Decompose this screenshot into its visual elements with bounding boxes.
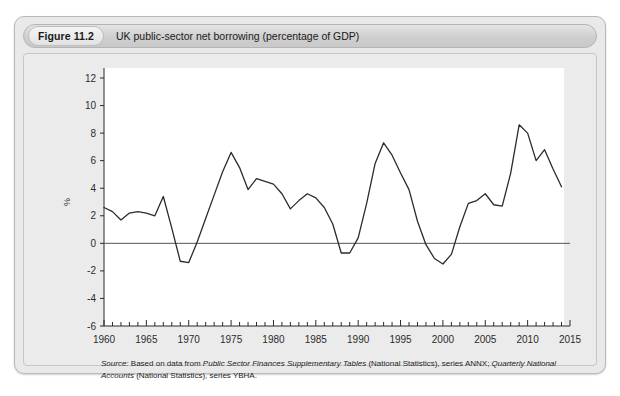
source-label: Source: [101, 359, 129, 368]
x-tick-label: 1990 [347, 334, 370, 345]
x-tick-label: 2015 [559, 334, 582, 345]
plot-background [104, 68, 564, 326]
source-italic-1: Public Sector Finances Supplementary Tab… [203, 359, 366, 368]
figure-body-panel: -6-4-2024681012 196019651970197519801985… [23, 53, 597, 366]
source-text-2: (National Statistics), series ANNX; [366, 359, 491, 368]
x-tick-label: 1975 [220, 334, 243, 345]
y-tick-label: 6 [90, 155, 96, 166]
y-tick-label: 2 [90, 210, 96, 221]
x-tick-label: 1980 [262, 334, 285, 345]
figure-title: UK public-sector net borrowing (percenta… [116, 30, 359, 42]
figure-page: Figure 11.2 UK public-sector net borrowi… [0, 0, 620, 396]
y-tick-label: 4 [90, 183, 96, 194]
chart-plot-area: -6-4-2024681012 196019651970197519801985… [24, 54, 598, 367]
source-note: Source: Based on data from Public Sector… [101, 358, 571, 381]
x-tick-label: 1965 [135, 334, 158, 345]
figure-number-badge: Figure 11.2 [28, 26, 104, 46]
y-axis: -6-4-2024681012 [85, 68, 104, 332]
y-tick-label: 8 [90, 128, 96, 139]
x-tick-label: 1970 [178, 334, 201, 345]
y-tick-label: 0 [90, 238, 96, 249]
source-text-1: Based on data from [129, 359, 203, 368]
figure-card: Figure 11.2 UK public-sector net borrowi… [14, 16, 606, 374]
figure-header-bar: Figure 11.2 UK public-sector net borrowi… [23, 24, 597, 48]
y-tick-label: -6 [87, 321, 96, 332]
y-tick-label: 10 [85, 100, 97, 111]
y-tick-label: -4 [87, 293, 96, 304]
line-chart-svg: -6-4-2024681012 196019651970197519801985… [24, 54, 598, 367]
source-text-3: (National Statistics), series YBHA. [134, 371, 257, 380]
x-tick-label: 1995 [389, 334, 412, 345]
x-tick-label: 1985 [305, 334, 328, 345]
x-tick-label: 2000 [432, 334, 455, 345]
x-tick-label: 2005 [474, 334, 497, 345]
y-tick-label: -2 [87, 265, 96, 276]
x-tick-label: 2010 [517, 334, 540, 345]
y-tick-label: 12 [85, 73, 97, 84]
x-tick-label: 1960 [93, 334, 116, 345]
y-axis-title: % [62, 198, 72, 206]
